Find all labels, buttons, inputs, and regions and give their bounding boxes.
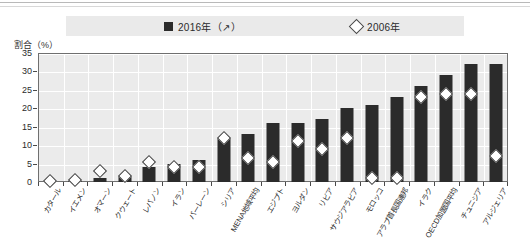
- chart-column: [112, 53, 137, 182]
- page-rule-top: [0, 2, 530, 3]
- bar-2016: [266, 123, 279, 182]
- x-category-label: モロッコ: [362, 185, 386, 215]
- legend-item-2016: 2016年（↗）: [164, 19, 241, 34]
- chart-column: [63, 53, 88, 182]
- chart-column: [261, 53, 286, 182]
- y-tick-mark: [33, 145, 37, 146]
- chart-column: [459, 53, 484, 182]
- y-tick-mark: [33, 164, 37, 165]
- chart-column: [137, 53, 162, 182]
- x-category-label: オマーン: [90, 185, 114, 215]
- x-category-label: イラク: [415, 185, 435, 209]
- y-tick-label: 5: [2, 159, 32, 169]
- bar-2016: [341, 108, 354, 182]
- y-tick-mark: [33, 90, 37, 91]
- chart-column: [360, 53, 385, 182]
- chart-legend: 2016年（↗） 2006年: [66, 16, 464, 36]
- x-category-label: チュニジア: [457, 185, 484, 221]
- page-rule-second: [0, 6, 530, 7]
- chart-figure: 2016年（↗） 2006年 割合（%） 05101520253035 カタール…: [0, 0, 530, 244]
- y-tick-label: 25: [2, 85, 32, 95]
- y-tick-label: 0: [2, 177, 32, 187]
- y-tick-mark: [33, 71, 37, 72]
- x-category-label: カタール: [40, 185, 64, 215]
- x-category-label: エジプト: [263, 185, 287, 215]
- legend-label-2006: 2006年: [367, 19, 401, 34]
- y-tick-label: 30: [2, 66, 32, 76]
- y-tick-mark: [33, 127, 37, 128]
- x-category-label: イラン: [168, 185, 188, 209]
- chart-column: [335, 53, 360, 182]
- x-category-label: リビア: [316, 185, 336, 209]
- bar-2016: [143, 167, 156, 182]
- bar-2016: [291, 123, 304, 182]
- chart-column: [236, 53, 261, 182]
- chart-column: [310, 53, 335, 182]
- chart-column: [384, 53, 409, 182]
- marker-2006: [93, 164, 107, 178]
- chart-column: [186, 53, 211, 182]
- x-category-label: バーレーン: [185, 185, 212, 221]
- x-category-label: レバノン: [139, 185, 163, 215]
- chart-column: [38, 53, 63, 182]
- legend-item-2006: 2006年: [351, 19, 401, 34]
- bar-2016: [489, 64, 502, 182]
- y-tick-label: 10: [2, 140, 32, 150]
- y-tick-mark: [33, 108, 37, 109]
- x-category-label: ヨルダン: [288, 185, 312, 215]
- chart-column: [483, 53, 508, 182]
- legend-label-2016: 2016年（↗）: [178, 19, 241, 34]
- chart-column: [211, 53, 236, 182]
- chart-column: [409, 53, 434, 182]
- chart-column: [434, 53, 459, 182]
- filled-square-icon: [164, 22, 173, 31]
- chart-column: [87, 53, 112, 182]
- chart-column: [285, 53, 310, 182]
- bar-2016: [464, 64, 477, 182]
- bar-2016: [390, 97, 403, 182]
- y-tick-label: 15: [2, 122, 32, 132]
- y-tick-label: 20: [2, 103, 32, 113]
- open-diamond-icon: [349, 18, 365, 34]
- x-category-label: クウェート: [111, 185, 138, 221]
- chart-column: [162, 53, 187, 182]
- x-category-label: イエメン: [65, 185, 89, 215]
- chart-series-layer: [38, 53, 508, 182]
- x-axis-labels: カタールイエメンオマーンクウェートレバノンイランバーレーンシリアMENA地域平均…: [38, 185, 508, 243]
- y-tick-label: 35: [2, 48, 32, 58]
- x-category-label: シリア: [217, 185, 237, 209]
